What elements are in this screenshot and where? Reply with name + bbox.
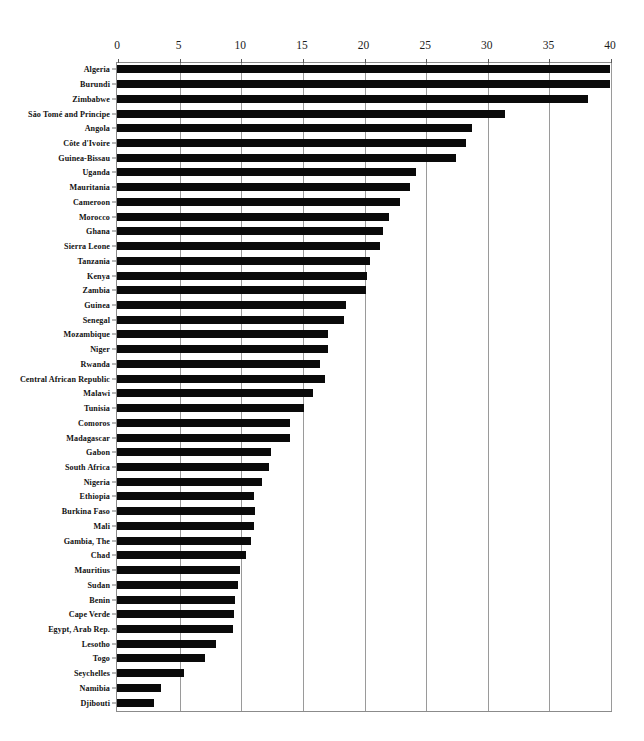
- bar: [117, 492, 254, 500]
- x-axis-tick-labels: 0510152025303540: [0, 38, 644, 58]
- category-label: Uganda: [82, 168, 110, 177]
- bar: [117, 286, 366, 294]
- y-tickmark: [112, 481, 116, 482]
- category-label: Mali: [93, 521, 110, 530]
- category-label: Mauritius: [74, 566, 110, 575]
- bar: [117, 272, 367, 280]
- category-label: São Tomé and Principe: [28, 109, 110, 118]
- chart-row: Malawi: [0, 386, 644, 401]
- chart-row: Angola: [0, 121, 644, 136]
- bar: [117, 65, 610, 73]
- y-tickmark: [112, 69, 116, 70]
- bar: [117, 478, 262, 486]
- chart-row: Sudan: [0, 577, 644, 592]
- x-axis-tick-10: 10: [235, 38, 247, 52]
- y-tickmark: [112, 673, 116, 674]
- category-label: Chad: [91, 551, 110, 560]
- bar: [117, 213, 389, 221]
- chart-row: Guinea: [0, 298, 644, 313]
- bar: [117, 640, 216, 648]
- bar: [117, 684, 161, 692]
- bar: [117, 463, 269, 471]
- bar: [117, 242, 380, 250]
- y-tickmark: [112, 643, 116, 644]
- chart-row: São Tomé and Principe: [0, 106, 644, 121]
- category-label: Tanzania: [78, 256, 110, 265]
- category-label: Mozambique: [64, 330, 110, 339]
- y-tickmark: [112, 231, 116, 232]
- y-tickmark: [112, 304, 116, 305]
- bar: [117, 316, 344, 324]
- y-tickmark: [112, 599, 116, 600]
- chart-row: Gabon: [0, 445, 644, 460]
- chart-row: Rwanda: [0, 357, 644, 372]
- category-label: Burundi: [80, 80, 110, 89]
- bar: [117, 448, 271, 456]
- category-label: Algeria: [84, 65, 110, 74]
- x-axis-tick-40: 40: [604, 38, 616, 52]
- category-label: Angola: [85, 124, 110, 133]
- y-tickmark: [112, 142, 116, 143]
- bar: [117, 434, 290, 442]
- chart-row: Seychelles: [0, 666, 644, 681]
- y-tickmark: [112, 216, 116, 217]
- y-tickmark: [112, 201, 116, 202]
- bar: [117, 227, 383, 235]
- chart-row: Morocco: [0, 209, 644, 224]
- bar: [117, 183, 410, 191]
- chart-row: Comoros: [0, 415, 644, 430]
- chart-row: Chad: [0, 548, 644, 563]
- chart-row: Namibia: [0, 681, 644, 696]
- chart-row: Sierra Leone: [0, 239, 644, 254]
- category-label: Côte d'Ivoire: [63, 138, 110, 147]
- chart-row: Algeria: [0, 62, 644, 77]
- bar: [117, 375, 325, 383]
- chart-row: Gambia, The: [0, 533, 644, 548]
- category-label: Zambia: [82, 286, 110, 295]
- category-label: Niger: [90, 345, 110, 354]
- y-tickmark: [112, 187, 116, 188]
- chart-row: Mauritius: [0, 563, 644, 578]
- category-label: Seychelles: [74, 669, 110, 678]
- chart-row: Senegal: [0, 312, 644, 327]
- y-tickmark: [112, 349, 116, 350]
- category-label: Malawi: [83, 389, 110, 398]
- bar: [117, 345, 328, 353]
- chart-row: Kenya: [0, 268, 644, 283]
- category-label: Ghana: [86, 227, 110, 236]
- bar: [117, 625, 233, 633]
- category-label: Zimbabwe: [72, 94, 110, 103]
- y-tickmark: [112, 555, 116, 556]
- bar: [117, 537, 251, 545]
- category-label: Gambia, The: [64, 536, 110, 545]
- chart-row: Djibouti: [0, 695, 644, 710]
- bar: [117, 596, 235, 604]
- bar: [117, 419, 290, 427]
- chart-row: Lesotho: [0, 636, 644, 651]
- bar: [117, 507, 255, 515]
- bar: [117, 110, 505, 118]
- category-label: Comoros: [78, 418, 110, 427]
- y-tickmark: [112, 378, 116, 379]
- chart-row: Mauritania: [0, 180, 644, 195]
- x-axis-tick-35: 35: [543, 38, 555, 52]
- y-tickmark: [112, 393, 116, 394]
- y-tickmark: [112, 172, 116, 173]
- bar-chart: 0510152025303540 AlgeriaBurundiZimbabweS…: [0, 0, 644, 741]
- y-tickmark: [112, 437, 116, 438]
- bar: [117, 389, 313, 397]
- bar: [117, 198, 400, 206]
- category-label: Namibia: [80, 683, 110, 692]
- chart-row: Burkina Faso: [0, 504, 644, 519]
- chart-row: Côte d'Ivoire: [0, 136, 644, 151]
- bar: [117, 154, 456, 162]
- y-tickmark: [112, 363, 116, 364]
- category-label: Benin: [89, 595, 110, 604]
- bar: [117, 699, 154, 707]
- y-tickmark: [112, 260, 116, 261]
- bar: [117, 139, 466, 147]
- y-tickmark: [112, 422, 116, 423]
- chart-row: Mozambique: [0, 327, 644, 342]
- y-tickmark: [112, 452, 116, 453]
- y-tickmark: [112, 290, 116, 291]
